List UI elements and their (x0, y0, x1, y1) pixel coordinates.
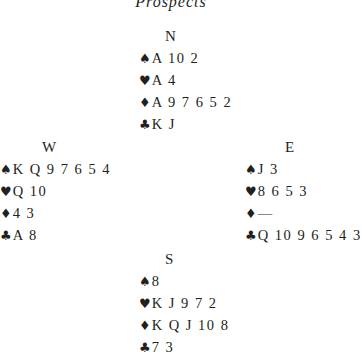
west-spades: ♠K Q 9 7 6 5 4 (0, 159, 111, 180)
heart-icon: ♥ (139, 294, 151, 314)
spade-icon: ♠ (139, 272, 151, 292)
west-clubs: ♣A 8 (0, 225, 38, 246)
south-hearts: ♥K J 9 7 2 (139, 293, 218, 314)
club-icon: ♣ (139, 338, 151, 352)
club-icon: ♣ (0, 226, 12, 246)
heart-icon: ♥ (0, 182, 12, 202)
deal-title: Prospects (0, 0, 342, 11)
west-diamonds: ♦4 3 (0, 203, 35, 224)
west-label: W (42, 139, 56, 156)
south-diamonds: ♦K Q J 10 8 (139, 315, 230, 336)
north-spades: ♠A 10 2 (139, 48, 199, 69)
south-clubs: ♣7 3 (139, 337, 174, 352)
north-label: N (165, 28, 176, 45)
diamond-icon: ♦ (139, 93, 151, 113)
spade-icon: ♠ (245, 160, 257, 180)
north-clubs: ♣K J (139, 114, 176, 135)
north-hearts: ♥A 4 (139, 70, 177, 91)
diamond-icon: ♦ (0, 204, 12, 224)
west-hearts: ♥Q 10 (0, 181, 47, 202)
club-icon: ♣ (245, 226, 257, 246)
east-spades: ♠J 3 (245, 159, 279, 180)
east-clubs: ♣Q 10 9 6 5 4 3 (245, 225, 362, 246)
spade-icon: ♠ (139, 49, 151, 69)
spade-icon: ♠ (0, 160, 12, 180)
heart-icon: ♥ (139, 71, 151, 91)
south-label: S (165, 251, 173, 268)
east-label: E (285, 139, 294, 156)
south-spades: ♠8 (139, 271, 160, 292)
east-diamonds: ♦— (245, 203, 274, 224)
diamond-icon: ♦ (139, 316, 151, 336)
north-diamonds: ♦A 9 7 6 5 2 (139, 92, 232, 113)
heart-icon: ♥ (245, 182, 257, 202)
club-icon: ♣ (139, 115, 151, 135)
diamond-icon: ♦ (245, 204, 257, 224)
east-hearts: ♥8 6 5 3 (245, 181, 308, 202)
